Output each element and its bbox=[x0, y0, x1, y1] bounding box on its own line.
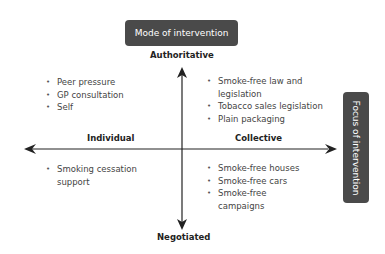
collective-negotiated-list: Smoke-free houses Smoke-free cars Smoke-… bbox=[207, 162, 317, 212]
list-item: Tobacco sales legislation bbox=[207, 100, 332, 113]
collective-authoritative-list: Smoke-free law and legislation Tobacco s… bbox=[207, 75, 332, 125]
list-item: Smoke-free campaigns bbox=[207, 187, 278, 212]
list-item: GP consultation bbox=[46, 89, 166, 102]
mode-of-intervention-text: Mode of intervention bbox=[135, 28, 229, 38]
list-item: Smoke-free houses bbox=[207, 162, 317, 175]
individual-authoritative-list: Peer pressure GP consultation Self bbox=[46, 76, 166, 114]
list-item: Plain packaging bbox=[207, 113, 332, 126]
list-item: Smoke-free cars bbox=[207, 175, 317, 188]
negotiated-label: Negotiated bbox=[157, 232, 210, 242]
list-item: Smoking cessation support bbox=[46, 163, 146, 188]
focus-of-intervention-text: Focus of intervention bbox=[351, 100, 361, 195]
mode-of-intervention-label: Mode of intervention bbox=[125, 20, 238, 46]
focus-of-intervention-label: Focus of intervention bbox=[343, 92, 369, 203]
individual-negotiated-list: Smoking cessation support bbox=[46, 163, 146, 188]
list-item: Smoke-free law and legislation bbox=[207, 75, 314, 100]
authoritative-label: Authoritative bbox=[150, 50, 214, 60]
list-item: Self bbox=[46, 101, 166, 114]
individual-label: Individual bbox=[87, 133, 134, 143]
list-item: Peer pressure bbox=[46, 76, 166, 89]
collective-label: Collective bbox=[235, 133, 282, 143]
